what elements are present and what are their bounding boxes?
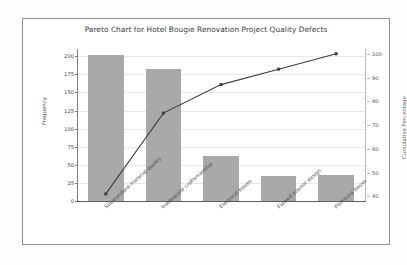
y-axis-right-tick-label: 40: [372, 193, 379, 199]
y-axis-right-tick-mark: [367, 196, 370, 197]
y-axis-left-tick-mark: [75, 165, 78, 166]
cumulative-line-marker: [104, 192, 107, 195]
y-axis-right-tick-label: 50: [372, 170, 379, 176]
y-axis-left-tick-label: 150: [64, 89, 74, 95]
y-axis-right-tick-label: 70: [372, 122, 379, 128]
y-axis-right-tick-label: 80: [372, 98, 379, 104]
y-axis-left-tick-label: 100: [64, 126, 74, 132]
y-axis-left-tick-mark: [75, 201, 78, 202]
y-axis-right-tick-mark: [367, 125, 370, 126]
cumulative-line-marker: [335, 52, 338, 55]
y-axis-left-tick-mark: [75, 56, 78, 57]
y-axis-left-tick-label: 175: [64, 71, 74, 77]
cumulative-line-marker: [277, 68, 280, 71]
y-axis-right-tick-mark: [367, 101, 370, 102]
cumulative-line-marker: [220, 83, 223, 86]
y-axis-right-tick-mark: [367, 149, 370, 150]
y-axis-left-tick-mark: [75, 129, 78, 130]
y-axis-left-tick-mark: [75, 92, 78, 93]
y-axis-left-tick-mark: [75, 147, 78, 148]
chart-title: Pareto Chart for Hotel Bougie Renovation…: [23, 25, 389, 34]
y-axis-left-tick-label: 125: [64, 108, 74, 114]
y-axis-right-ticks: 405060708090100: [372, 49, 396, 201]
y-axis-left-tick-label: 0: [71, 198, 74, 204]
y-axis-right-tick-mark: [367, 54, 370, 55]
y-axis-right-tick-mark: [367, 78, 370, 79]
y-axis-right-tick-label: 60: [372, 146, 379, 152]
y-axis-left-tick-mark: [75, 111, 78, 112]
cumulative-line-marker: [162, 112, 165, 115]
y-axis-left-tick-mark: [75, 183, 78, 184]
y-axis-left-tick-label: 200: [64, 53, 74, 59]
y-axis-left-tick-label: 50: [67, 162, 74, 168]
y-axis-right-tick-mark: [367, 173, 370, 174]
y-axis-right-tick-label: 100: [372, 51, 382, 57]
y-axis-left-tick-label: 25: [67, 180, 74, 186]
y-axis-left-ticks: 0255075100125150175200: [53, 49, 74, 201]
figure-frame: Pareto Chart for Hotel Bougie Renovation…: [22, 18, 390, 245]
y-axis-right-label: Cumulative Percentage: [401, 96, 407, 159]
y-axis-right-tick-label: 90: [372, 75, 379, 81]
y-axis-left-tick-label: 75: [67, 144, 74, 150]
y-axis-left-label: Frequency: [41, 97, 47, 125]
y-axis-left-tick-mark: [75, 74, 78, 75]
cumulative-percentage-line: [77, 49, 365, 201]
